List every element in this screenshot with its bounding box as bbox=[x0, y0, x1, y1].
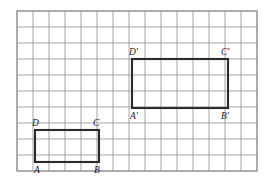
vertex-label-b-prime: B' bbox=[221, 111, 230, 121]
vertex-label-d: D bbox=[31, 118, 39, 128]
geometry-figure: ABCDA'B'C'D' bbox=[0, 0, 273, 190]
vertex-label-c-prime: C' bbox=[221, 47, 230, 57]
vertex-label-b: B bbox=[94, 165, 100, 175]
vertex-label-a-prime: A' bbox=[129, 111, 139, 121]
grid-canvas: ABCDA'B'C'D' bbox=[0, 0, 273, 190]
vertex-label-a: A bbox=[33, 165, 40, 175]
vertex-label-d-prime: D' bbox=[128, 47, 139, 57]
vertex-label-c: C bbox=[93, 118, 100, 128]
